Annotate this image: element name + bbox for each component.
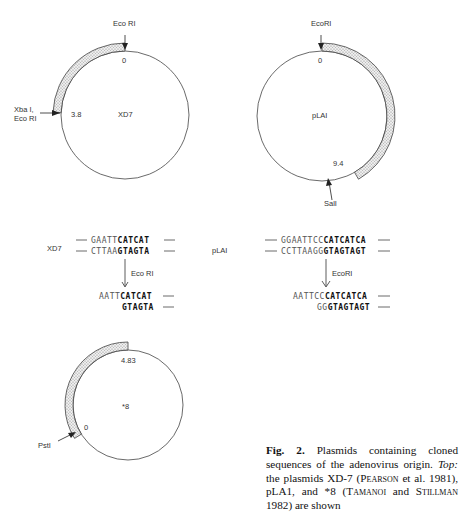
figure-caption: Fig. 2. Plasmids containing cloned seque… — [266, 444, 458, 513]
site-label-ecori-xd7: Eco RI — [113, 19, 136, 28]
plasmid-name-xd7: XD7 — [118, 110, 133, 119]
insert-region-xd7 — [53, 43, 125, 113]
seq-plai-cut-bottom: GGGTAGTAGT — [317, 303, 370, 312]
enzyme-label-xd7: Eco RI — [131, 269, 154, 278]
arrow-head-icon — [326, 178, 332, 186]
start-label-8: 0 — [84, 423, 88, 432]
seq-xd7-cut-top: AATTCATCAT — [99, 292, 152, 301]
figure-label: Fig. 2. — [266, 444, 305, 456]
seq-plai-bottom: CCTTAAGGGTAGTAGT — [281, 247, 366, 256]
sequence-label-plai: pLAI — [212, 246, 227, 255]
caption-author: Tamanoi — [346, 485, 386, 497]
caption-text: and — [386, 485, 416, 497]
caption-author: Stillman — [416, 485, 458, 497]
caption-text: the plasmids XD-7 ( — [266, 472, 360, 484]
plasmid-xd7: Eco RI 0 3.8 XD7 Xba I, Eco RI — [14, 19, 189, 179]
plasmid-name-8: *8 — [122, 402, 129, 411]
caption-author: Pearson — [360, 472, 398, 484]
sequence-xd7: XD7 GAATTCATCAT CTTAAGTAGTA Eco RI AATTC… — [47, 236, 175, 312]
seq-plai-cut-top: AATTCCCATCATCA — [293, 292, 367, 301]
seq-xd7-cut-bottom: GTAGTA — [122, 303, 154, 312]
site-label-sali: SalI — [324, 199, 337, 208]
plasmid-8: 4.83 *8 0 PstI — [38, 342, 183, 460]
site-label-ecori-plai: EcoRI — [311, 19, 331, 28]
start-label-plai: 0 — [318, 56, 322, 65]
seq-xd7-bottom: CTTAAGTAGTA — [91, 247, 150, 256]
site-label-xbai: Xba I, — [14, 105, 34, 114]
seq-plai-top: GGAATTCCCATCATCA — [281, 236, 366, 245]
caption-text: 1982) are shown — [266, 499, 341, 511]
end-label-plai: 9.4 — [333, 159, 343, 168]
insert-region-8 — [65, 342, 128, 438]
plasmid-plai: EcoRI 0 pLAI 9.4 SalI — [257, 19, 395, 208]
seq-xd7-top: GAATTCATCAT — [91, 236, 150, 245]
caption-top-label: Top: — [438, 458, 458, 470]
site-label-psti: PstI — [38, 441, 51, 450]
sequence-plai: pLAI GGAATTCCCATCATCA CCTTAAGGGTAGTAGT E… — [212, 236, 390, 312]
end-label-8: 4.83 — [121, 356, 136, 365]
enzyme-label-plai: EcoRI — [332, 269, 352, 278]
end-label-xd7: 3.8 — [71, 110, 81, 119]
start-label-xd7: 0 — [122, 56, 126, 65]
sequence-label-xd7: XD7 — [47, 244, 62, 253]
plasmid-name-plai: pLAI — [312, 111, 327, 120]
site-label-ecori-xd7-2: Eco RI — [14, 114, 37, 123]
